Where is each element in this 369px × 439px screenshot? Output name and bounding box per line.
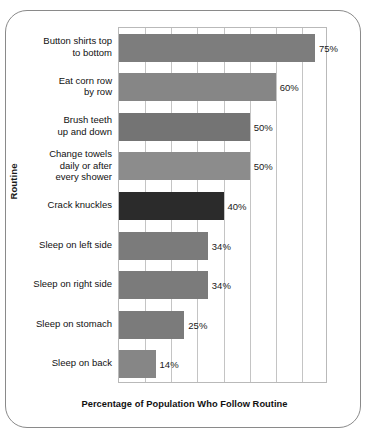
category-label: Brush teeth up and down [0, 114, 112, 137]
category-label: Button shirts top to bottom [0, 35, 112, 58]
bar-value-label: 34% [208, 280, 231, 291]
bar-row: 34% [119, 232, 326, 260]
bar-value-label: 50% [250, 121, 273, 132]
bar[interactable] [119, 34, 315, 62]
bar-value-label: 60% [276, 82, 299, 93]
bar-value-label: 25% [184, 319, 207, 330]
category-label: Eat corn row by row [0, 75, 112, 98]
category-label: Crack knuckles [0, 199, 112, 211]
bar[interactable] [119, 192, 224, 220]
bar-value-label: 75% [315, 42, 338, 53]
category-label: Sleep on stomach [0, 318, 112, 330]
bar-row: 14% [119, 350, 326, 378]
bar-row: 60% [119, 73, 326, 101]
chart-figure: Routine 75%60%50%50%40%34%34%25%14% Butt… [0, 0, 369, 439]
bar[interactable] [119, 271, 208, 299]
category-label: Sleep on left side [0, 239, 112, 251]
bar-value-label: 34% [208, 240, 231, 251]
bar[interactable] [119, 73, 276, 101]
bar-value-label: 14% [156, 359, 179, 370]
bar-row: 25% [119, 311, 326, 339]
bar[interactable] [119, 152, 250, 180]
x-axis-title: Percentage of Population Who Follow Rout… [0, 399, 369, 409]
bar-value-label: 50% [250, 161, 273, 172]
plot-area: 75%60%50%50%40%34%34%25%14% [118, 27, 327, 383]
bar[interactable] [119, 311, 184, 339]
bar-row: 34% [119, 271, 326, 299]
bar-row: 50% [119, 113, 326, 141]
bar[interactable] [119, 350, 156, 378]
bar[interactable] [119, 232, 208, 260]
category-label: Sleep on right side [0, 278, 112, 290]
bar-row: 75% [119, 34, 326, 62]
bar[interactable] [119, 113, 250, 141]
bar-value-label: 40% [224, 201, 247, 212]
bar-row: 40% [119, 192, 326, 220]
category-label: Change towels daily or after every showe… [0, 148, 112, 183]
bar-row: 50% [119, 152, 326, 180]
category-label: Sleep on back [0, 357, 112, 369]
